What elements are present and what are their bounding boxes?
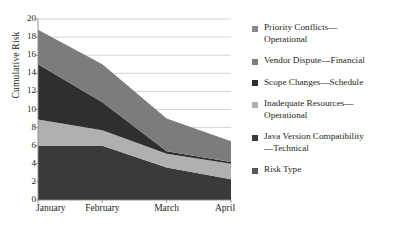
x-tick-label: March [154, 203, 179, 214]
legend-item-label: Risk Type [264, 164, 301, 176]
legend-swatch-scope-changes [252, 80, 258, 86]
legend-swatch-priority-conflicts [252, 26, 258, 32]
y-tick-label: 4 [16, 159, 36, 168]
legend-item-label: Java Version Compatibility —Technical [264, 131, 364, 154]
legend-item[interactable]: Vendor Dispute—Financial [252, 55, 397, 67]
legend-item[interactable]: Inadequate Resources— Operational [252, 98, 397, 121]
x-tick-label: February [85, 203, 119, 214]
legend-item-label: Inadequate Resources— Operational [264, 98, 354, 121]
chart-legend: Priority Conflicts— OperationalVendor Di… [252, 22, 397, 186]
legend-item[interactable]: Priority Conflicts— Operational [252, 22, 397, 45]
y-tick-label: 6 [16, 141, 36, 150]
x-tick-label: April [215, 203, 235, 214]
legend-item[interactable]: Scope Changes—Schedule [252, 77, 397, 89]
plot-area: 02468101214161820 Cumulative Risk Januar… [0, 0, 240, 232]
y-axis-title: Cumulative Risk [11, 5, 21, 125]
y-tick-label: 2 [16, 177, 36, 186]
legend-item-label: Scope Changes—Schedule [264, 77, 363, 89]
chart-figure: 02468101214161820 Cumulative Risk Januar… [0, 0, 397, 232]
x-tick-label: January [36, 203, 66, 214]
stacked-area-svg [0, 0, 240, 232]
legend-swatch-vendor-dispute [252, 59, 258, 65]
legend-item-label: Priority Conflicts— Operational [264, 22, 337, 45]
y-tick-label: 0 [16, 195, 36, 204]
legend-swatch-java-version [252, 135, 258, 141]
legend-item[interactable]: Java Version Compatibility —Technical [252, 131, 397, 154]
legend-item-label: Vendor Dispute—Financial [264, 55, 365, 67]
legend-item[interactable]: Risk Type [252, 164, 397, 176]
legend-swatch-inadequate-resources [252, 102, 258, 108]
legend-swatch-risk-type [252, 168, 258, 174]
